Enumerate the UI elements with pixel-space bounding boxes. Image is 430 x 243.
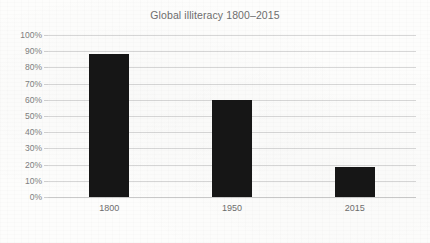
y-tick-mark bbox=[44, 181, 48, 182]
chart-container: Global illiteracy 1800–2015 0%10%20%30%4… bbox=[0, 0, 430, 243]
bar-1950 bbox=[212, 100, 252, 197]
y-tick-mark bbox=[44, 116, 48, 117]
y-tick-mark bbox=[44, 148, 48, 149]
y-tick-mark bbox=[44, 35, 48, 36]
y-axis-label: 40% bbox=[25, 127, 42, 137]
y-axis-label: 0% bbox=[30, 192, 42, 202]
x-axis-label-2015: 2015 bbox=[345, 203, 365, 213]
y-tick-mark bbox=[44, 165, 48, 166]
y-tick-mark bbox=[44, 132, 48, 133]
x-axis-label-1800: 1800 bbox=[99, 203, 119, 213]
y-axis-label: 20% bbox=[25, 160, 42, 170]
y-axis-label: 90% bbox=[25, 46, 42, 56]
bar-1800 bbox=[89, 54, 129, 197]
y-axis-label: 30% bbox=[25, 143, 42, 153]
y-axis-label: 50% bbox=[25, 111, 42, 121]
y-axis-label: 70% bbox=[25, 79, 42, 89]
y-axis-label: 60% bbox=[25, 95, 42, 105]
y-axis-label: 80% bbox=[25, 62, 42, 72]
y-tick-mark bbox=[44, 100, 48, 101]
x-axis-label-1950: 1950 bbox=[222, 203, 242, 213]
y-tick-mark bbox=[44, 51, 48, 52]
y-tick-mark bbox=[44, 67, 48, 68]
bar-2015 bbox=[335, 167, 375, 197]
chart-title: Global illiteracy 1800–2015 bbox=[0, 9, 430, 21]
gridline-0 bbox=[48, 197, 416, 198]
plot-area bbox=[48, 35, 416, 197]
gridline-90 bbox=[48, 51, 416, 52]
y-axis: 0%10%20%30%40%50%60%70%80%90%100% bbox=[8, 35, 42, 197]
y-tick-mark bbox=[44, 197, 48, 198]
y-axis-label: 10% bbox=[25, 176, 42, 186]
gridline-100 bbox=[48, 35, 416, 36]
y-tick-mark bbox=[44, 84, 48, 85]
y-axis-label: 100% bbox=[20, 30, 42, 40]
